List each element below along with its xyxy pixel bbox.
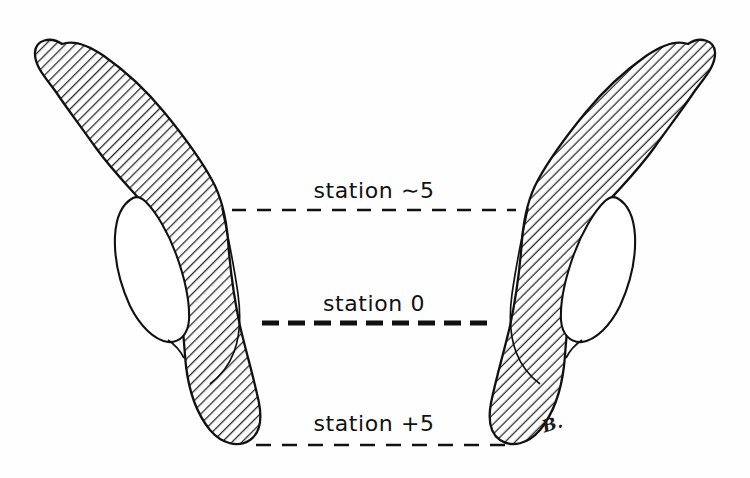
figure-root: station ∼5 station 0 station +5 B. [0,0,750,478]
anatomical-diagram [0,0,750,478]
